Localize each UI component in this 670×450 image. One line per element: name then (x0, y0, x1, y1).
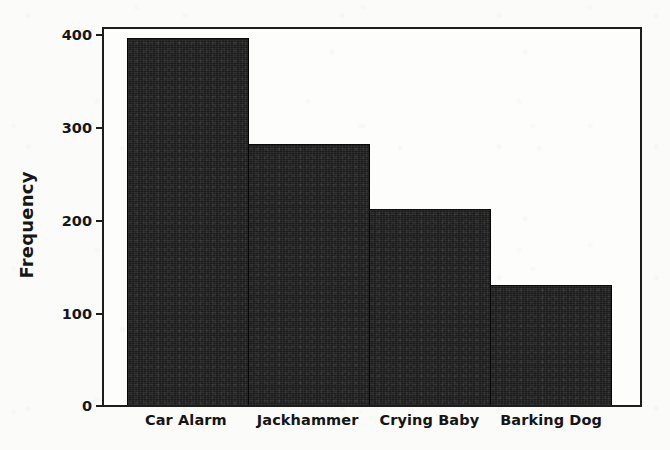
bar-jackhammer[interactable] (249, 144, 370, 405)
bar-chart-figure: Frequency 400 300 200 100 0 Car Alarm Ja… (0, 0, 670, 450)
plot-frame (102, 27, 642, 407)
bar-series (127, 29, 612, 405)
x-label-car-alarm: Car Alarm (125, 412, 247, 428)
bar-barking-dog[interactable] (491, 285, 612, 405)
x-label-jackhammer: Jackhammer (247, 412, 369, 428)
y-tick-label-0: 0 (50, 399, 92, 414)
y-tick-label-200: 200 (50, 214, 92, 229)
x-label-barking-dog: Barking Dog (490, 412, 612, 428)
bar-crying-baby[interactable] (370, 209, 491, 405)
y-axis-title: Frequency (16, 140, 40, 310)
y-tick-label-400: 400 (50, 28, 92, 43)
x-label-crying-baby: Crying Baby (369, 412, 491, 428)
y-tick-label-300: 300 (50, 121, 92, 136)
plot-area (104, 29, 640, 405)
y-axis-ticks: 400 300 200 100 0 (50, 0, 92, 450)
y-tick-label-100: 100 (50, 307, 92, 322)
x-axis-labels: Car Alarm Jackhammer Crying Baby Barking… (125, 412, 612, 428)
bar-car-alarm[interactable] (127, 38, 249, 405)
